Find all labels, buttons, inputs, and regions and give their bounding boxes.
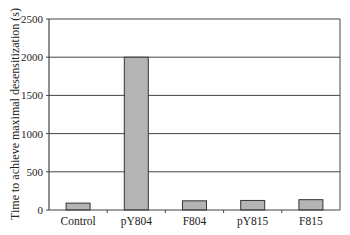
bar-chart: 05001000150020002500 ControlpY804F804pY8… <box>0 0 350 235</box>
axes <box>46 19 340 213</box>
bar-f815 <box>299 200 323 210</box>
bar-py804 <box>124 57 148 210</box>
y-axis-title: Time to achieve maximal desensitization … <box>8 8 22 220</box>
y-tick-label: 1000 <box>21 128 44 140</box>
gridlines <box>49 19 340 172</box>
y-tick-label: 2500 <box>21 13 44 25</box>
x-category-label: Control <box>61 215 96 227</box>
x-category-label: pY815 <box>237 215 269 228</box>
x-category-label: F804 <box>183 215 207 227</box>
y-tick-label: 2000 <box>21 51 44 63</box>
bar-control <box>66 203 90 210</box>
y-tick-labels: 05001000150020002500 <box>21 13 44 216</box>
x-category-label: F815 <box>299 215 323 227</box>
bar-py815 <box>241 200 265 210</box>
x-category-label: pY804 <box>121 215 153 228</box>
y-tick-label: 1500 <box>21 89 44 101</box>
x-category-labels: ControlpY804F804pY815F815 <box>61 215 323 228</box>
y-tick-label: 0 <box>38 204 44 216</box>
bar-f804 <box>183 201 207 210</box>
y-tick-label: 500 <box>27 166 44 178</box>
